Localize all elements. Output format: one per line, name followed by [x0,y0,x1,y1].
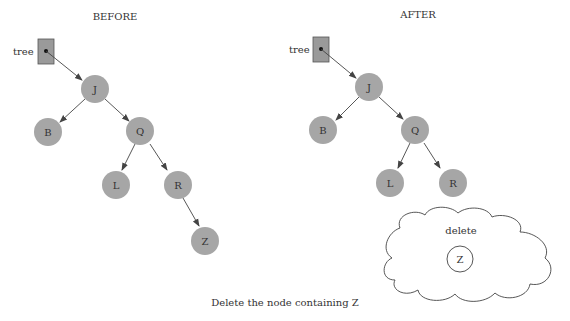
after-node-Q: Q [401,116,429,144]
after-pointer-label: tree [289,44,310,55]
before-node-R: R [164,171,192,199]
caption: Delete the node containing Z [211,297,359,308]
before-node-Z: Z [191,227,219,255]
svg-text:L: L [113,180,120,191]
after-title: AFTER [399,9,436,20]
before-title: BEFORE [93,11,138,22]
after-node-J: J [355,73,383,101]
cloud-label: delete [445,225,476,236]
bst-delete-diagram: BEFORE tree J B Q L R Z AFTER tree [0,0,570,321]
before-edges [46,51,199,226]
after-node-L: L [376,169,404,197]
before-node-B: B [34,118,62,146]
after-node-R: R [439,169,467,197]
svg-text:L: L [387,178,394,189]
svg-text:J: J [366,82,371,93]
before-pointer-label: tree [13,46,34,57]
svg-text:J: J [92,84,97,95]
after-node-B: B [309,116,337,144]
svg-text:B: B [44,127,51,138]
svg-text:Z: Z [202,236,209,247]
before-node-Q: Q [126,117,154,145]
svg-text:Q: Q [136,126,144,137]
before-node-L: L [102,171,130,199]
svg-text:B: B [319,125,326,136]
before-node-J: J [81,75,109,103]
deleted-node-Z: Z [447,246,473,272]
svg-text:Z: Z [457,254,464,265]
svg-text:Q: Q [411,125,419,136]
after-edges [321,49,440,168]
svg-text:R: R [174,180,182,191]
svg-text:R: R [449,178,457,189]
